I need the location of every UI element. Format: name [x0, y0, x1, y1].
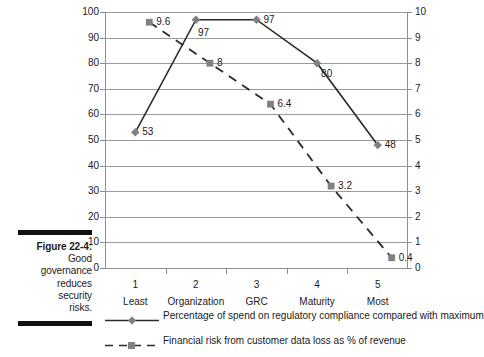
legend-label-0: Percentage of spend on regulatory compli… [163, 310, 484, 321]
data-point-label: 0.4 [399, 253, 413, 263]
plot-area: 1001090980870760650540430320210100 1Leas… [105, 12, 408, 268]
data-point-marker [388, 254, 395, 261]
data-point-marker [192, 15, 200, 23]
right-axis-tick-label: 3 [415, 186, 439, 196]
right-axis-tick-label: 0 [415, 263, 439, 273]
data-point-label: 53 [142, 127, 153, 137]
series-paths [105, 12, 408, 269]
right-axis-tick-label: 6 [415, 109, 439, 119]
left-axis-tick-label: 70 [69, 84, 99, 94]
legend-label-1: Financial risk from customer data loss a… [163, 335, 406, 346]
data-point-marker [207, 60, 214, 67]
left-axis-tick-label: 50 [69, 135, 99, 145]
x-axis-number-1: 1 [105, 280, 165, 290]
series-line-0 [135, 20, 377, 145]
right-axis-tick-label: 8 [415, 58, 439, 68]
left-axis-tick-label: 80 [69, 58, 99, 68]
data-point-label: 80 [321, 69, 332, 79]
right-axis-tick-label: 1 [415, 237, 439, 247]
data-point-label: 48 [385, 140, 396, 150]
data-point-marker [328, 183, 335, 190]
data-point-marker [131, 128, 139, 136]
right-axis-tick-label: 10 [415, 7, 439, 17]
data-point-marker [267, 101, 274, 108]
left-axis-tick-label: 20 [69, 212, 99, 222]
left-axis-tick-label: 10 [69, 237, 99, 247]
x-axis-number-5: 5 [348, 280, 408, 290]
x-axis-category-label: Most [338, 297, 418, 307]
left-axis-tick-label: 60 [69, 109, 99, 119]
data-point-marker [146, 19, 153, 26]
data-point-label: 97 [264, 15, 275, 25]
left-axis-tick-label: 0 [69, 263, 99, 273]
right-axis-tick-label: 5 [415, 135, 439, 145]
x-axis-number-4: 4 [287, 280, 347, 290]
left-axis-tick-label: 100 [69, 7, 99, 17]
right-axis-tick-label: 7 [415, 84, 439, 94]
right-axis-tick-label: 9 [415, 33, 439, 43]
left-axis-tick-label: 40 [69, 161, 99, 171]
data-point-label: 9.6 [156, 17, 170, 27]
data-point-label: 6.4 [278, 99, 292, 109]
left-axis-tick-label: 30 [69, 186, 99, 196]
data-point-label: 97 [198, 28, 209, 38]
left-axis-tick-label: 90 [69, 33, 99, 43]
right-axis-tick-label: 4 [415, 161, 439, 171]
x-axis-number-3: 3 [227, 280, 287, 290]
legend-key-solid-diamond [105, 315, 159, 326]
x-axis-number-2: 2 [166, 280, 226, 290]
legend-key-dashed-square [105, 340, 159, 351]
data-point-label: 3.2 [338, 181, 352, 191]
right-axis-tick-label: 2 [415, 212, 439, 222]
series-line-1 [149, 22, 391, 258]
data-point-label: 8 [217, 58, 223, 68]
